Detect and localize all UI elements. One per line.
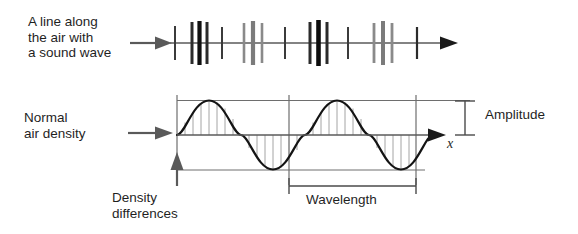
label-normal-air-density: Normal air density [24, 110, 86, 141]
amplitude-bracket [455, 101, 475, 135]
density-wave-group [128, 95, 475, 194]
label-density-differences: Density differences [112, 190, 178, 221]
air-line-group [130, 20, 458, 66]
air-label-pointer-arrow [130, 37, 172, 50]
density-differences-pointer-arrow [171, 152, 184, 186]
air-line-arrowhead [440, 37, 458, 50]
density-axis-arrowhead [428, 129, 446, 142]
normal-density-pointer-arrow [128, 127, 173, 140]
label-amplitude: Amplitude [485, 107, 545, 123]
label-axis-x: x [447, 136, 453, 152]
label-wavelength: Wavelength [306, 192, 377, 208]
label-line-along-air: A line along the air with a sound wave [28, 14, 111, 61]
